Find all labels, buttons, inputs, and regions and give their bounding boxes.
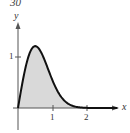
x-tick-label-2: 2 bbox=[84, 112, 89, 122]
area-chart bbox=[0, 0, 130, 133]
x-tick-label-1: 1 bbox=[50, 112, 55, 122]
x-axis-label: x bbox=[122, 101, 126, 112]
y-tick-label-1: 1 bbox=[9, 51, 14, 61]
y-axis-label: y bbox=[14, 10, 18, 21]
y-axis-arrow-icon bbox=[16, 22, 21, 29]
